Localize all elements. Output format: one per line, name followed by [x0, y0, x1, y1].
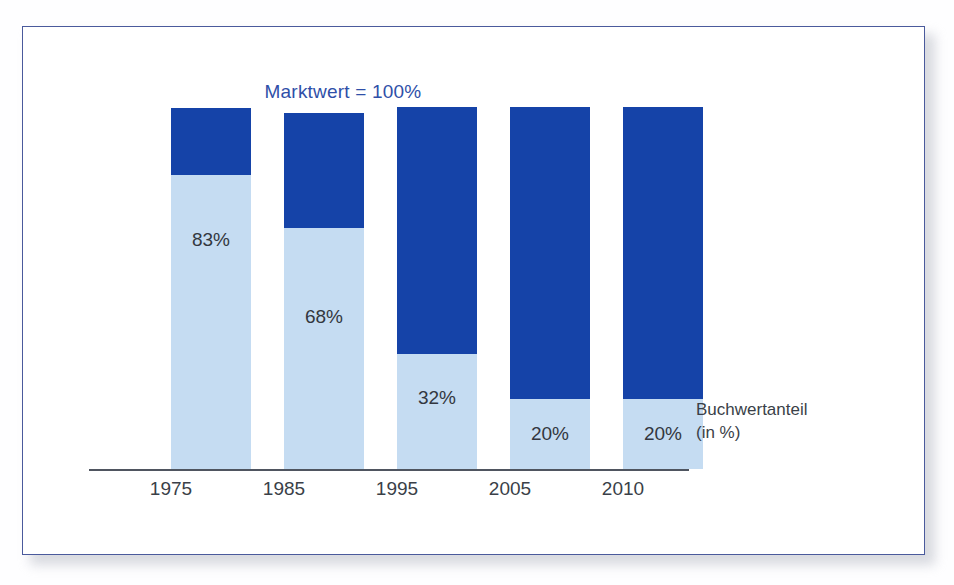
stacked-bar-1975[interactable]: 83%	[171, 108, 251, 469]
bar-segment-market-premium-1975	[171, 108, 251, 175]
x-tick-label-1975: 1975	[126, 478, 216, 500]
stacked-bar-2005[interactable]: 20%	[510, 107, 590, 469]
bar-value-label-1985: 68%	[284, 306, 364, 328]
chart-area: Marktwert = 100% 83%	[23, 27, 926, 556]
stacked-bar-2010[interactable]: 20%	[623, 107, 703, 469]
bar-segment-market-premium-1995	[397, 107, 477, 354]
x-tick-label-1995: 1995	[352, 478, 442, 500]
bar-segment-book-value-2005: 20%	[510, 399, 590, 469]
bar-slot-1975: 83%	[171, 108, 251, 469]
bar-value-label-1975: 83%	[171, 229, 251, 251]
bar-plot: 83% 68%	[111, 108, 711, 469]
stacked-bar-1985[interactable]: 68%	[284, 113, 364, 469]
bar-value-label-2005: 20%	[510, 423, 590, 445]
chart-frame: Marktwert = 100% 83%	[22, 26, 925, 555]
x-tick-label-1985: 1985	[239, 478, 329, 500]
bar-segment-market-premium-1985	[284, 113, 364, 228]
bar-slot-2010: 20%	[623, 108, 703, 469]
bar-segment-market-premium-2010	[623, 107, 703, 399]
bar-value-label-1995: 32%	[397, 387, 477, 409]
bar-value-label-2010: 20%	[623, 423, 703, 445]
bar-slot-1995: 32%	[397, 108, 477, 469]
x-tick-label-2010: 2010	[578, 478, 668, 500]
bar-segment-market-premium-2005	[510, 107, 590, 399]
bar-segment-book-value-1985: 68%	[284, 228, 364, 469]
bar-segment-book-value-1995: 32%	[397, 354, 477, 469]
chart-title: Marktwert = 100%	[23, 81, 663, 103]
bar-slot-2005: 20%	[510, 108, 590, 469]
stacked-bar-1995[interactable]: 32%	[397, 107, 477, 469]
series-annotation: Buchwertanteil (in %)	[696, 398, 808, 444]
series-annotation-line-1: Buchwertanteil	[696, 398, 808, 421]
bar-slot-1985: 68%	[284, 108, 364, 469]
series-annotation-line-2: (in %)	[696, 421, 808, 444]
x-axis-line	[89, 469, 689, 471]
x-tick-label-2005: 2005	[465, 478, 555, 500]
bar-segment-book-value-1975: 83%	[171, 175, 251, 469]
bar-segment-book-value-2010: 20%	[623, 399, 703, 469]
figure-root: Marktwert = 100% 83%	[0, 0, 954, 585]
